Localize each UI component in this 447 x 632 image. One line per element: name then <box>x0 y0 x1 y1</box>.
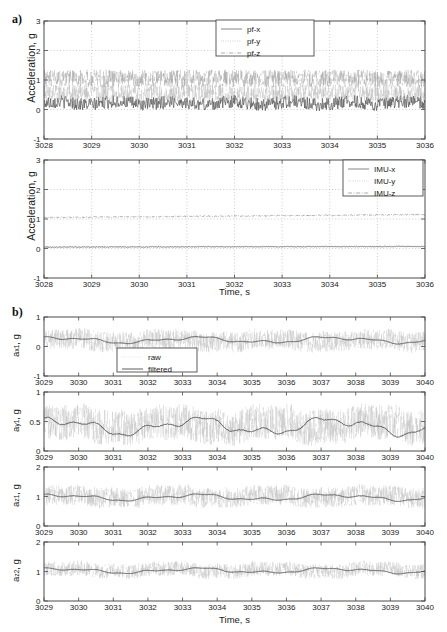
svg-text:3035: 3035 <box>243 453 261 462</box>
svg-text:3031: 3031 <box>104 528 122 537</box>
svg-text:3033: 3033 <box>174 528 192 537</box>
ylabel-unit: , g <box>10 409 21 420</box>
panel-a-xlabel: Time, s <box>44 286 425 297</box>
svg-text:3038: 3038 <box>347 603 365 612</box>
svg-text:3034: 3034 <box>208 528 226 537</box>
svg-text:0: 0 <box>36 343 41 352</box>
svg-text:3037: 3037 <box>312 603 330 612</box>
svg-text:3034: 3034 <box>208 378 226 387</box>
svg-text:3033: 3033 <box>174 378 192 387</box>
svg-text:3035: 3035 <box>368 141 386 150</box>
svg-text:3036: 3036 <box>278 453 296 462</box>
legend-item-label: filtered <box>148 365 172 374</box>
svg-text:2: 2 <box>36 538 41 547</box>
svg-text:3032: 3032 <box>139 453 157 462</box>
svg-text:3039: 3039 <box>381 453 399 462</box>
svg-text:3040: 3040 <box>416 528 434 537</box>
legend-item-label: pf-z <box>247 49 260 58</box>
svg-text:3037: 3037 <box>312 378 330 387</box>
svg-text:1: 1 <box>36 568 41 577</box>
svg-text:3039: 3039 <box>381 378 399 387</box>
legend-item-label: raw <box>148 353 161 362</box>
svg-text:3040: 3040 <box>416 453 434 462</box>
svg-text:3030: 3030 <box>70 603 88 612</box>
svg-text:0: 0 <box>36 597 41 606</box>
svg-text:0: 0 <box>36 447 41 456</box>
panel-b-xlabel: Time, s <box>44 614 425 625</box>
svg-text:3029: 3029 <box>35 453 53 462</box>
ylabel-subscript: z1 <box>13 495 20 502</box>
svg-text:3030: 3030 <box>70 378 88 387</box>
svg-text:3030: 3030 <box>130 141 148 150</box>
svg-text:0: 0 <box>36 522 41 531</box>
svg-text:3033: 3033 <box>174 453 192 462</box>
svg-text:3036: 3036 <box>416 141 434 150</box>
svg-text:3031: 3031 <box>104 603 122 612</box>
panel-a-label: a) <box>12 12 22 27</box>
panel-b1-ylabel: ax1, g <box>10 316 21 376</box>
svg-text:3029: 3029 <box>83 141 101 150</box>
svg-text:3029: 3029 <box>35 378 53 387</box>
svg-text:3039: 3039 <box>381 603 399 612</box>
svg-text:3034: 3034 <box>208 453 226 462</box>
svg-text:3031: 3031 <box>178 141 196 150</box>
ylabel-unit: , g <box>10 334 21 345</box>
svg-text:3031: 3031 <box>104 378 122 387</box>
legend-item-label: IMU-y <box>374 177 395 186</box>
ylabel-subscript: y1 <box>13 420 20 427</box>
svg-text:3035: 3035 <box>243 528 261 537</box>
svg-text:3038: 3038 <box>347 528 365 537</box>
panel-b2-ylabel: ay1, g <box>10 391 21 451</box>
svg-text:3036: 3036 <box>278 603 296 612</box>
svg-text:3028: 3028 <box>35 141 53 150</box>
svg-text:3034: 3034 <box>208 603 226 612</box>
svg-text:3030: 3030 <box>70 453 88 462</box>
svg-text:3032: 3032 <box>139 378 157 387</box>
svg-text:3035: 3035 <box>243 603 261 612</box>
svg-text:0.5: 0.5 <box>29 418 41 427</box>
svg-text:1: 1 <box>36 388 41 397</box>
legend-item-label: IMU-z <box>374 189 395 198</box>
svg-text:1: 1 <box>36 313 41 322</box>
svg-text:3040: 3040 <box>416 603 434 612</box>
svg-text:3033: 3033 <box>174 603 192 612</box>
svg-text:3033: 3033 <box>273 141 291 150</box>
svg-text:3036: 3036 <box>278 528 296 537</box>
svg-text:3038: 3038 <box>347 378 365 387</box>
svg-text:-1: -1 <box>33 135 41 144</box>
panel-a-top-ylabel: Acceleration, g <box>25 13 37 123</box>
ylabel-base: a <box>10 352 21 357</box>
ylabel-subscript: z2 <box>13 570 20 577</box>
svg-text:3038: 3038 <box>347 453 365 462</box>
ylabel-unit: , g <box>10 484 21 495</box>
svg-text:1: 1 <box>36 493 41 502</box>
panel-a-bottom-ylabel: Acceleration, g <box>25 151 37 261</box>
svg-text:-1: -1 <box>33 274 41 283</box>
svg-text:3035: 3035 <box>243 378 261 387</box>
panel-b4-ylabel: az2, g <box>10 541 21 601</box>
svg-text:3040: 3040 <box>416 378 434 387</box>
svg-text:3037: 3037 <box>312 453 330 462</box>
svg-text:3030: 3030 <box>70 528 88 537</box>
svg-text:3039: 3039 <box>381 528 399 537</box>
ylabel-base: a <box>10 502 21 507</box>
svg-text:3034: 3034 <box>321 141 339 150</box>
panel-b3-ylabel: az1, g <box>10 466 21 526</box>
ylabel-base: a <box>10 577 21 582</box>
svg-text:2: 2 <box>36 463 41 472</box>
legend-item-label: pf-y <box>247 37 260 46</box>
legend-item-label: pf-x <box>247 25 260 34</box>
figure-root: a) Acceleration, g 302830293030303130323… <box>0 0 447 632</box>
svg-text:3029: 3029 <box>35 603 53 612</box>
svg-text:3031: 3031 <box>104 453 122 462</box>
ylabel-base: a <box>10 427 21 432</box>
svg-text:3032: 3032 <box>139 528 157 537</box>
svg-text:3032: 3032 <box>226 141 244 150</box>
svg-text:-1: -1 <box>33 372 41 381</box>
legend-item-label: IMU-x <box>374 165 395 174</box>
svg-text:3036: 3036 <box>278 378 296 387</box>
ylabel-subscript: x1 <box>13 345 20 352</box>
svg-text:3037: 3037 <box>312 528 330 537</box>
ylabel-unit: , g <box>10 559 21 570</box>
svg-text:3032: 3032 <box>139 603 157 612</box>
